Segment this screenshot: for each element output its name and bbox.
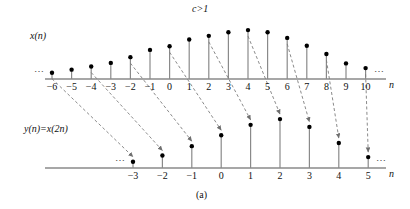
tick-label: −3 [102, 82, 120, 92]
tick-label: −4 [82, 82, 100, 92]
ellipsis-label: ⋯ [374, 67, 385, 77]
tick-label: 6 [278, 82, 296, 92]
tick-label: 5 [359, 171, 377, 181]
figure-container: c>1 x(n) y(n)=x(2n) n n (a) −6−5−4−3−2−1… [0, 0, 410, 209]
tick-label: 3 [219, 82, 237, 92]
upper-signal-label: x(n) [30, 31, 46, 41]
tick-label: −2 [121, 82, 139, 92]
tick-label: 1 [242, 171, 260, 181]
tick-label: 0 [212, 171, 230, 181]
tick-label: 0 [161, 82, 179, 92]
tick-label: 2 [271, 171, 289, 181]
tick-label: 8 [317, 82, 335, 92]
figure-caption: (a) [196, 190, 207, 200]
tick-label: −1 [141, 82, 159, 92]
condition-label: c>1 [192, 4, 208, 14]
lower-signal-label: y(n)=x(2n) [24, 124, 68, 134]
tick-label: 5 [259, 82, 277, 92]
tick-label: 4 [330, 171, 348, 181]
tick-label: −6 [43, 82, 61, 92]
tick-label: −3 [124, 171, 142, 181]
tick-label: 1 [180, 82, 198, 92]
upper-axis-label: n [389, 80, 394, 90]
tick-label: 7 [298, 82, 316, 92]
tick-label: −2 [153, 171, 171, 181]
lower-axis-label: n [389, 169, 394, 179]
tick-label: 2 [200, 82, 218, 92]
tick-label: 3 [300, 171, 318, 181]
stem-plot-canvas [0, 0, 410, 209]
tick-label: −5 [63, 82, 81, 92]
ellipsis-label: ⋯ [115, 156, 126, 166]
ellipsis-label: ⋯ [34, 67, 45, 77]
tick-label: −1 [183, 171, 201, 181]
lower-plot-group [45, 117, 386, 168]
tick-label: 4 [239, 82, 257, 92]
tick-label: 9 [337, 82, 355, 92]
ellipsis-label: ⋯ [376, 156, 387, 166]
mapping-arrows-group [52, 36, 368, 157]
tick-label: 10 [357, 82, 375, 92]
